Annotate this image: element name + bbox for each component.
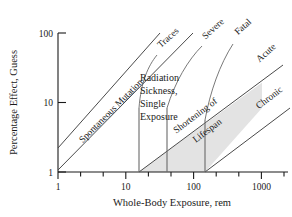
x-axis-title: Whole-Body Exposure, rem: [113, 197, 231, 208]
y-tick-100: 100: [39, 29, 54, 39]
y-tick-10: 10: [44, 98, 54, 108]
chart-figure: 100 10 1 1 10 100 1000 Whole-Body Exposu…: [0, 0, 292, 217]
radiation-line-2: Sickness,: [140, 85, 178, 96]
label-severe: Severe: [200, 16, 226, 41]
radiation-line-4: Exposure: [140, 111, 178, 122]
x-tick-1: 1: [56, 182, 61, 192]
text-block-radiation-sickness: Radiation Sickness, Single Exposure: [140, 72, 179, 122]
y-axis-title: Percentage Effect, Guess: [8, 50, 19, 155]
x-tick-10: 10: [121, 182, 131, 192]
label-traces: Traces: [155, 25, 180, 49]
y-axis-ticks: [58, 33, 66, 172]
y-tick-1: 1: [48, 168, 53, 178]
x-tick-1000: 1000: [252, 182, 271, 192]
label-acute: Acute: [254, 41, 278, 64]
x-tick-100: 100: [186, 182, 201, 192]
radiation-line-3: Single: [140, 98, 166, 109]
x-axis-ticks: [58, 172, 284, 179]
chart-canvas: 100 10 1 1 10 100 1000 Whole-Body Exposu…: [0, 0, 292, 217]
label-fatal: Fatal: [233, 16, 254, 36]
label-spontaneous-mutation: Spontaneous Mutation: [77, 77, 145, 145]
radiation-line-1: Radiation: [140, 72, 179, 83]
